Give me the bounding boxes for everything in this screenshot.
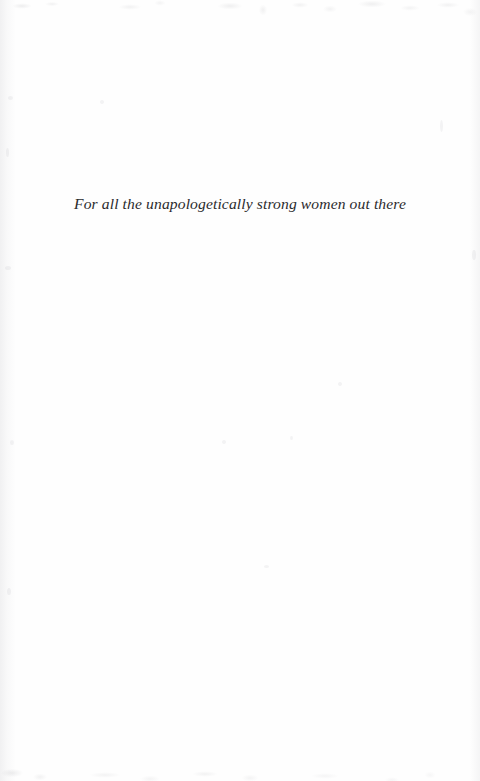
scan-speck <box>8 96 13 100</box>
scan-noise-bottom <box>0 711 480 781</box>
scan-speck <box>472 250 476 260</box>
scan-noise-top <box>0 0 480 26</box>
scan-speck <box>10 440 14 445</box>
scan-speck <box>100 100 104 104</box>
scan-speck <box>6 148 9 157</box>
scan-speck <box>264 565 269 568</box>
scan-speck <box>5 266 11 270</box>
scan-edge-shadow <box>470 0 480 781</box>
scan-speck <box>290 436 293 440</box>
dedication-page: For all the unapologetically strong wome… <box>0 0 480 781</box>
scan-speck <box>338 382 342 386</box>
scan-speck <box>7 588 11 595</box>
scan-gutter-shadow <box>0 0 16 781</box>
scan-speck <box>222 440 226 444</box>
dedication-text: For all the unapologetically strong wome… <box>74 193 406 214</box>
dedication-block: For all the unapologetically strong wome… <box>0 193 480 214</box>
scan-speck <box>440 120 443 132</box>
